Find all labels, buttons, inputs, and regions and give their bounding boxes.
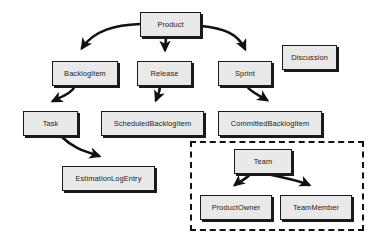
node-estimationlogentry[interactable]: EstimationLogEntry: [62, 166, 155, 191]
edge-product-to-release: [165, 37, 166, 50]
node-sprint-label: Sprint: [235, 70, 255, 77]
node-release[interactable]: Release: [137, 61, 192, 86]
edge-sprint-to-committedbacklogitem: [247, 86, 267, 100]
node-scheduledbacklogitem-label: ScheduledBacklogItem: [114, 120, 192, 127]
class-diagram: Product BacklogItem Release Sprint Discu…: [0, 0, 384, 247]
node-product-label: Product: [157, 21, 183, 28]
node-discussion-label: Discussion: [291, 54, 328, 61]
edge-product-to-backlogitem: [82, 24, 140, 48]
node-committedbacklogitem[interactable]: CommittedBacklogItem: [218, 111, 322, 136]
node-productowner[interactable]: ProductOwner: [200, 195, 272, 220]
node-release-label: Release: [151, 70, 179, 77]
node-backlogitem-label: BacklogItem: [64, 70, 106, 77]
node-estimationlogentry-label: EstimationLogEntry: [76, 175, 142, 182]
node-product[interactable]: Product: [140, 12, 201, 37]
edge-backlogitem-to-task: [53, 86, 75, 101]
node-task[interactable]: Task: [23, 111, 78, 136]
node-productowner-label: ProductOwner: [212, 204, 260, 211]
node-sprint[interactable]: Sprint: [218, 61, 272, 86]
node-scheduledbacklogitem[interactable]: ScheduledBacklogItem: [101, 111, 204, 136]
node-committedbacklogitem-label: CommittedBacklogItem: [231, 120, 309, 127]
node-discussion[interactable]: Discussion: [282, 45, 337, 70]
edge-product-to-sprint: [201, 26, 245, 49]
node-backlogitem[interactable]: BacklogItem: [52, 61, 118, 86]
node-team-label: Team: [254, 158, 272, 165]
node-task-label: Task: [43, 120, 59, 127]
edge-task-to-estimationlogentry: [62, 137, 99, 156]
node-teammember-label: TeamMember: [293, 204, 339, 211]
edge-release-to-scheduledbacklogitem: [156, 86, 160, 100]
node-team[interactable]: Team: [234, 149, 292, 174]
node-teammember[interactable]: TeamMember: [280, 195, 352, 220]
